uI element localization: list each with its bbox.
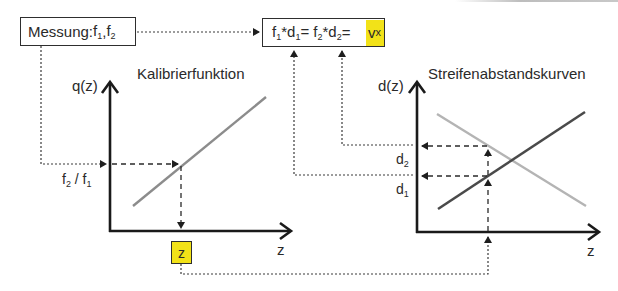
connector-d2-to-equation [342,51,413,145]
right-chart [409,82,599,240]
equation-result-vx: vx [366,20,384,46]
right-x-axis-label: z [587,243,595,258]
right-chart-title: Streifenabstandskurven [428,66,586,81]
measurement-box: Messung: f1,f2 [20,17,136,46]
equation-term-d1: *d1 [281,24,300,42]
d2-label: d2 [396,152,409,169]
left-y-axis-label: q(z) [72,78,98,93]
connectors [41,32,488,274]
calibration-curve [133,97,266,206]
measurement-label: Messung: [28,24,93,39]
measurement-f1: f1 [93,23,102,41]
equation-box: f1*d1 = f2*d2= vx [262,18,385,47]
z-result-box: z [171,241,192,264]
rising-fringe-curve [438,112,585,209]
connector-measurement-to-ratio [41,46,106,164]
d1-label: d1 [396,182,409,199]
equation-term-f1: f1 [272,24,281,42]
left-chart [102,82,291,239]
measurement-f2: f2 [106,23,115,41]
right-y-axis-label: d(z) [378,78,404,93]
left-x-axis-label: z [277,242,285,257]
left-chart-title: Kalibrierfunktion [137,66,245,81]
equation-term-d2: *d2 [323,24,342,42]
equation-term-f2: = f2 [300,24,322,42]
connector-z-to-right-axis [181,237,488,274]
ratio-label: f2 / f1 [62,172,91,189]
